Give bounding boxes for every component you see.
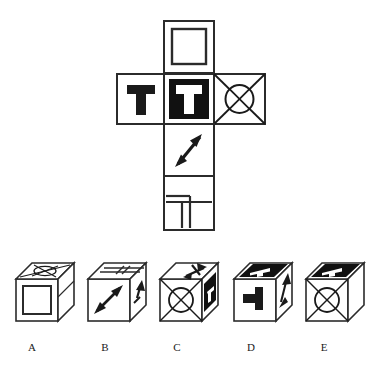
spatial-reasoning-puzzle: A B C D E	[0, 0, 383, 373]
option-label-b: B	[95, 341, 115, 353]
option-label-e: E	[314, 341, 334, 353]
option-label-c: C	[167, 341, 187, 353]
option-e[interactable]	[0, 0, 383, 373]
option-e-cube[interactable]	[306, 263, 364, 321]
option-label-a: A	[22, 341, 42, 353]
option-label-d: D	[241, 341, 261, 353]
